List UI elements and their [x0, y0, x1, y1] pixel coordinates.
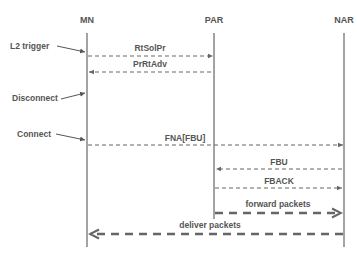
participant-par-label: PAR [205, 15, 224, 25]
message-fback-label: FBACK [264, 176, 295, 186]
message-fbu-label: FBU [270, 157, 287, 167]
event-disconnect-label: Disconnect [12, 93, 58, 103]
event-connect-arrow [56, 134, 85, 140]
message-rtsolpr-label: RtSolPr [134, 43, 166, 53]
message-deliver-packets-label: deliver packets [179, 220, 241, 230]
message-prrtadv-label: PrRtAdv [133, 59, 167, 69]
event-l2-trigger-arrow [57, 46, 85, 52]
participant-mn-label: MN [80, 15, 94, 25]
event-l2-trigger-label: L2 trigger [10, 41, 50, 51]
message-fna-fbu-label: FNA[FBU] [165, 133, 206, 143]
participant-nar-label: NAR [334, 15, 354, 25]
sequence-diagram: MN PAR NAR L2 trigger Disconnect Connect… [0, 0, 357, 256]
message-forward-packets-label: forward packets [245, 199, 310, 209]
event-disconnect-arrow [61, 93, 85, 99]
event-connect-label: Connect [17, 129, 51, 139]
